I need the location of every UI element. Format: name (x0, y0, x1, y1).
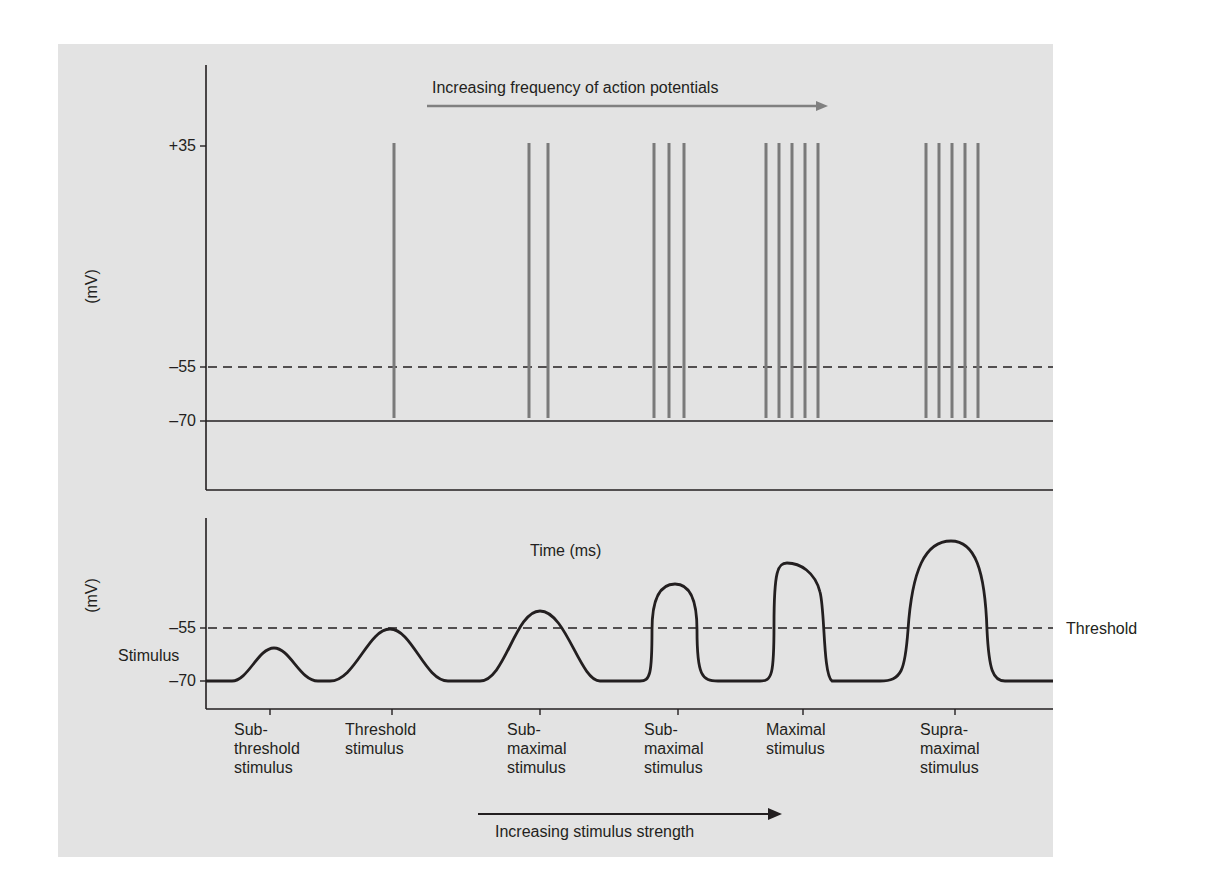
y-tick-plus35: +35 (146, 136, 196, 155)
y-tick-minus55-bottom: –55 (146, 618, 196, 637)
stimulus-label-submaximal-1: Sub- maximal stimulus (507, 720, 567, 777)
y-tick-minus70-bottom: –70 (146, 671, 196, 690)
stimulus-label-supramaximal: Supra- maximal stimulus (920, 720, 980, 777)
y-tick-minus55-top: –55 (146, 357, 196, 376)
stimulus-strength-annotation: Increasing stimulus strength (495, 822, 694, 841)
stimulus-strength-arrow (478, 808, 782, 820)
threshold-label: Threshold (1066, 619, 1137, 638)
stimulus-label-submaximal-2: Sub- maximal stimulus (644, 720, 704, 777)
stimulus-curve (206, 541, 1053, 681)
stimulus-label: Stimulus (118, 646, 179, 665)
stimulus-label-subthreshold: Sub- threshold stimulus (234, 720, 300, 777)
frequency-annotation: Increasing frequency of action potential… (432, 78, 718, 97)
y-axis-label-bottom: (mV) (82, 578, 101, 613)
stimulus-label-maximal: Maximal stimulus (766, 720, 826, 758)
action-potential-spikes (394, 143, 978, 418)
y-tick-minus70-top: –70 (146, 411, 196, 430)
figure-graphics (0, 0, 1209, 894)
x-axis-label: Time (ms) (530, 541, 601, 560)
stimulus-label-threshold: Threshold stimulus (345, 720, 416, 758)
frequency-arrow (427, 101, 828, 111)
bottom-panel-axes (200, 518, 1053, 715)
y-axis-label-top: (mV) (82, 269, 101, 304)
